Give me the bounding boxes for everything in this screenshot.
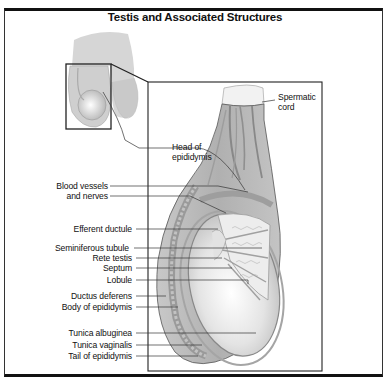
label-body-of-epididymis: Body of epididymis bbox=[62, 302, 132, 312]
label-spermatic-cord-1: Spermatic bbox=[278, 92, 316, 102]
label-efferent-ductule: Efferent ductule bbox=[74, 224, 132, 234]
label-seminiferous-tubule: Seminiferous tubule bbox=[55, 243, 129, 253]
label-blood-vessels-2: and nerves bbox=[66, 191, 108, 201]
label-ductus-deferens: Ductus deferens bbox=[71, 291, 132, 301]
label-tail-of-epididymis: Tail of epididymis bbox=[68, 351, 132, 361]
label-tunica-albuginea: Tunica albuginea bbox=[68, 328, 132, 338]
label-tunica-vaginalis: Tunica vaginalis bbox=[72, 340, 132, 350]
label-head-of-epididymis-1: Head of bbox=[172, 142, 201, 152]
label-blood-vessels-1: Blood vessels bbox=[56, 181, 108, 191]
label-lobule: Lobule bbox=[107, 275, 132, 285]
label-rete-testis: Rete testis bbox=[93, 253, 133, 263]
anatomy-illustration bbox=[0, 0, 390, 385]
label-spermatic-cord-2: cord bbox=[278, 102, 294, 112]
overview-figure bbox=[66, 32, 138, 129]
label-head-of-epididymis-2: epididymis bbox=[172, 152, 212, 162]
label-septum: Septum bbox=[103, 263, 132, 273]
